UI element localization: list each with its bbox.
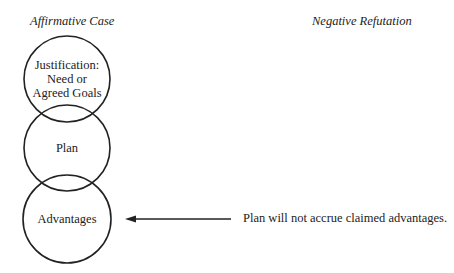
refutation-text: Plan will not accrue claimed advantages. — [243, 211, 447, 226]
plan-label: Plan — [25, 141, 109, 155]
advantages-label: Advantages — [25, 212, 109, 226]
justification-label: Justification: Need or Agreed Goals — [25, 58, 109, 100]
justification-label-line: Justification: — [25, 58, 109, 72]
debate-diagram — [0, 0, 454, 273]
arrowhead-icon — [125, 216, 136, 223]
plan-label-line: Plan — [25, 141, 109, 155]
advantages-label-line: Advantages — [25, 212, 109, 226]
justification-label-line: Agreed Goals — [25, 86, 109, 100]
justification-label-line: Need or — [25, 72, 109, 86]
refutation-arrow — [125, 216, 231, 223]
